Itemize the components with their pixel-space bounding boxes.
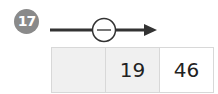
table-cell-minuend: 46 — [160, 48, 213, 92]
table-cell-blank[interactable] — [52, 48, 106, 92]
table-cell-subtrahend: 19 — [106, 48, 160, 92]
answer-table: 19 46 — [51, 47, 214, 93]
